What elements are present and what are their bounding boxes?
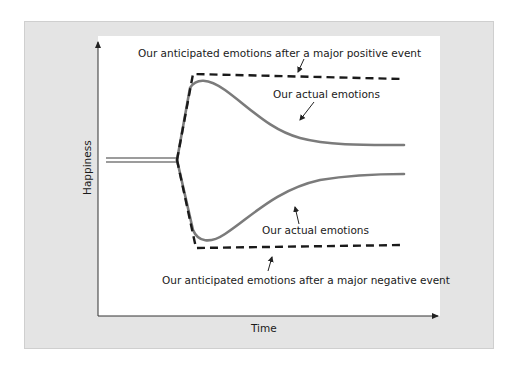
x-axis-label: Time	[250, 322, 277, 334]
pointer-arrow-icon	[300, 102, 314, 120]
anticipated-negative-label: Our anticipated emotions after a major n…	[162, 274, 450, 286]
pointer-arrow-icon	[298, 59, 304, 72]
anticipated-positive-line	[177, 74, 404, 160]
pointer-arrow-icon	[268, 257, 272, 271]
y-axis-label: Happiness	[81, 140, 93, 195]
happiness-chart: Our anticipated emotions after a major p…	[0, 0, 514, 367]
actual-positive-label: Our actual emotions	[273, 88, 380, 100]
actual-negative-label: Our actual emotions	[262, 224, 369, 236]
pointer-arrow-icon	[295, 207, 299, 224]
anticipated-positive-label: Our anticipated emotions after a major p…	[138, 47, 421, 59]
